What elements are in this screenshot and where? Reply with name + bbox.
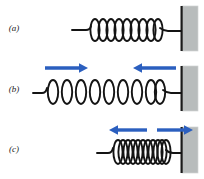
- wall-edge: [181, 66, 183, 111]
- diagram-canvas: (a) (b): [0, 0, 204, 179]
- panel-c-spring-coils: [113, 140, 170, 164]
- panel-a-label: (a): [9, 23, 20, 33]
- panel-a-wall: [181, 6, 199, 51]
- spring-force-diagram: (a) (b): [0, 0, 204, 179]
- panel-c-wall: [181, 127, 199, 173]
- wall-edge: [181, 127, 183, 173]
- wall-edge: [181, 6, 183, 51]
- panel-b-label: (b): [9, 84, 20, 94]
- wall-body: [182, 66, 198, 111]
- wall-body: [182, 6, 198, 51]
- panel-b-wall: [181, 66, 199, 111]
- panel-c-label: (c): [9, 144, 19, 154]
